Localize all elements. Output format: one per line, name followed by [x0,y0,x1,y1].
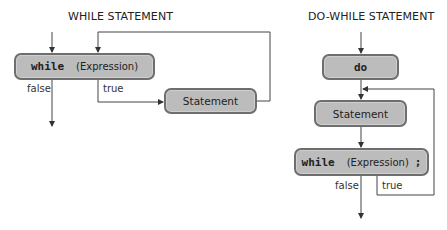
do-box: do [322,54,399,80]
false-label: false [27,83,51,94]
do-while-statement-title: DO-WHILE STATEMENT [308,10,434,23]
while-condition-box: while (Expression) [14,53,155,80]
do-keyword: do [354,61,367,74]
true-label: true [103,83,124,94]
true-label: true [382,180,403,191]
statement-label: Statement [183,95,238,107]
statement-box: Statement [164,88,257,114]
statement-box: Statement [314,100,407,127]
while-condition-box: while (Expression) ; [294,148,429,176]
statement-label: Statement [333,108,388,120]
false-label: false [335,180,359,191]
expression-text: (Expression) [347,157,409,168]
while-keyword: while [302,156,335,169]
while-keyword: while [31,60,64,73]
semicolon: ; [415,156,422,169]
expression-text: (Expression) [76,61,138,72]
while-statement-title: WHILE STATEMENT [68,10,173,23]
